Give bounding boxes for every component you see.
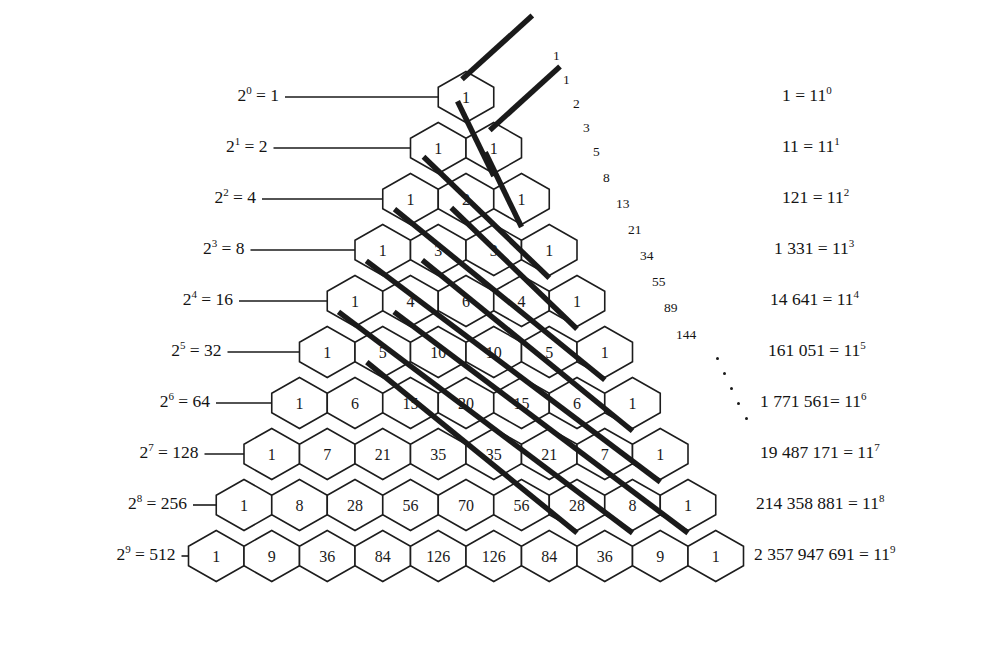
- power-of-two-exponent: 7: [148, 441, 154, 453]
- power-of-two-base: 28 = 256: [128, 493, 187, 513]
- hexagon-value: 84: [375, 548, 391, 565]
- power-of-two-label: 22 = 4: [0, 187, 256, 208]
- hexagon-value: 28: [347, 497, 363, 514]
- fibonacci-label: 55: [652, 274, 666, 290]
- hexagon-value: 1: [351, 293, 359, 310]
- fibonacci-label: 3: [583, 120, 590, 136]
- power-of-eleven-label: 214 358 881 = 118: [756, 493, 884, 514]
- power-of-two-label: 21 = 2: [0, 136, 268, 157]
- power-of-eleven-label: 1 331 = 113: [774, 238, 854, 259]
- power-of-two-label: 24 = 16: [0, 289, 233, 310]
- power-of-two-exponent: 5: [180, 339, 186, 351]
- hexagon-value: 36: [319, 548, 335, 565]
- hexagon-value: 3: [490, 242, 498, 259]
- power-of-two-exponent: 9: [125, 543, 131, 555]
- hexagon-value: 1: [379, 242, 387, 259]
- power-of-two-exponent: 3: [212, 237, 218, 249]
- hexagon-value: 56: [403, 497, 419, 514]
- fibonacci-label: 21: [628, 222, 642, 238]
- hexagon-value: 35: [430, 446, 446, 463]
- hexagon-value: 126: [426, 548, 450, 565]
- hexagon-value: 9: [656, 548, 664, 565]
- power-of-two-label: 29 = 512: [0, 544, 176, 565]
- fibonacci-label: 1: [563, 72, 570, 88]
- power-of-two-exponent: 4: [191, 288, 197, 300]
- hexagon-value: 28: [569, 497, 585, 514]
- hexagon-value: 1: [684, 497, 692, 514]
- power-of-eleven-exponent: 1: [834, 135, 840, 147]
- hexagon-value: 15: [514, 395, 530, 412]
- power-of-eleven-value: 161 051 = 115: [768, 340, 866, 360]
- power-of-eleven-label: 1 = 110: [782, 85, 832, 106]
- power-of-eleven-value: 1 331 = 113: [774, 238, 854, 258]
- hexagon-value: 4: [518, 293, 526, 310]
- power-of-eleven-value: 121 = 112: [782, 187, 849, 207]
- power-of-eleven-value: 1 771 561= 116: [760, 391, 867, 411]
- hexagon-value: 1: [656, 446, 664, 463]
- power-of-eleven-exponent: 4: [854, 288, 860, 300]
- hexagon-value: 126: [482, 548, 506, 565]
- power-of-two-exponent: 1: [235, 135, 241, 147]
- fibonacci-label: 5: [593, 144, 600, 160]
- hexagon-value: 1: [518, 191, 526, 208]
- power-of-eleven-label: 14 641 = 114: [770, 289, 859, 310]
- hexagon-value: 1: [434, 140, 442, 157]
- power-of-eleven-value: 1 = 110: [782, 85, 832, 105]
- power-of-two-exponent: 6: [168, 390, 174, 402]
- hexagon-value: 2: [462, 191, 470, 208]
- hexagon-value: 1: [407, 191, 415, 208]
- power-of-eleven-value: 2 357 947 691 = 119: [754, 544, 896, 564]
- hexagon-value: 6: [351, 395, 359, 412]
- hexagon-value: 21: [541, 446, 557, 463]
- power-of-eleven-value: 214 358 881 = 118: [756, 493, 884, 513]
- power-of-two-base: 26 = 64: [160, 391, 210, 411]
- fibonacci-label: 144: [676, 327, 696, 343]
- power-of-eleven-value: 11 = 111: [782, 136, 840, 156]
- hexagon-value: 1: [573, 293, 581, 310]
- hexagon-value: 15: [403, 395, 419, 412]
- power-of-eleven-label: 121 = 112: [782, 187, 849, 208]
- hexagon-value: 10: [430, 344, 446, 361]
- power-of-two-base: 24 = 16: [183, 289, 233, 309]
- power-of-eleven-label: 2 357 947 691 = 119: [754, 544, 896, 565]
- fibonacci-label: 8: [603, 170, 610, 186]
- hexagon-value: 7: [601, 446, 609, 463]
- power-of-two-label: 20 = 1: [0, 85, 279, 106]
- hexagon-value: 8: [629, 497, 637, 514]
- power-of-eleven-label: 1 771 561= 116: [760, 391, 867, 412]
- hexagon-value: 1: [490, 140, 498, 157]
- hexagon-value: 20: [458, 395, 474, 412]
- hexagon-value: 1: [462, 89, 470, 106]
- hexagon-value: 1: [601, 344, 609, 361]
- fibonacci-label: 34: [640, 248, 654, 264]
- hexagon-value: 1: [712, 548, 720, 565]
- power-of-two-label: 28 = 256: [0, 493, 187, 514]
- power-of-two-base: 25 = 32: [171, 340, 221, 360]
- hexagon-value: 84: [541, 548, 557, 565]
- power-of-eleven-exponent: 0: [826, 84, 832, 96]
- power-of-eleven-label: 161 051 = 115: [768, 340, 866, 361]
- hexagon-value: 1: [240, 497, 248, 514]
- fibonacci-diagonal: [490, 67, 560, 131]
- power-of-eleven-value: 14 641 = 114: [770, 289, 859, 309]
- figure-canvas: 1111211331146411510105116152015611721353…: [0, 0, 990, 646]
- hexagon-value: 8: [296, 497, 304, 514]
- hexagon-value: 7: [323, 446, 331, 463]
- fibonacci-label: 2: [573, 96, 580, 112]
- power-of-eleven-label: 11 = 111: [782, 136, 840, 157]
- power-of-eleven-value: 19 487 171 = 117: [760, 442, 880, 462]
- power-of-two-exponent: 8: [137, 492, 143, 504]
- power-of-two-base: 22 = 4: [214, 187, 256, 207]
- power-of-eleven-exponent: 3: [849, 237, 855, 249]
- power-of-two-base: 20 = 1: [237, 85, 279, 105]
- hexagon-value: 5: [379, 344, 387, 361]
- hexagon-value: 5: [545, 344, 553, 361]
- hexagon-value: 70: [458, 497, 474, 514]
- power-of-two-base: 29 = 512: [116, 544, 175, 564]
- hexagon-value: 35: [486, 446, 502, 463]
- power-of-two-label: 23 = 8: [0, 238, 245, 259]
- power-of-eleven-exponent: 2: [844, 186, 850, 198]
- power-of-two-base: 21 = 2: [226, 136, 268, 156]
- hexagon-value: 10: [486, 344, 502, 361]
- fibonacci-label: 89: [664, 300, 678, 316]
